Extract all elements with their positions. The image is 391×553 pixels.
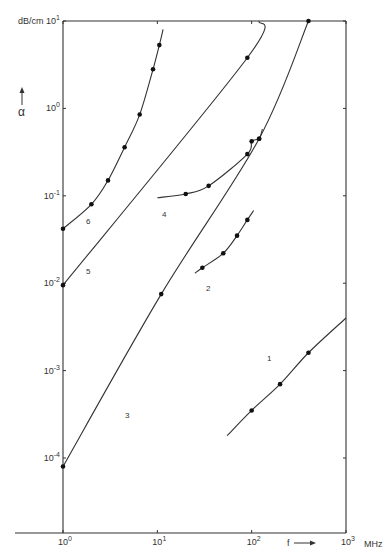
data-point-curve-4 xyxy=(245,152,250,157)
x-symbol-f: f xyxy=(287,538,290,548)
curve-2 xyxy=(195,210,254,273)
y-arrow-icon xyxy=(20,87,25,105)
x-tick-label: 103 xyxy=(341,535,355,547)
x-tick-label: 100 xyxy=(58,535,72,547)
data-point-curve-5 xyxy=(245,55,250,60)
data-point-curve-3 xyxy=(159,292,164,297)
data-point-curve-6 xyxy=(106,178,111,183)
data-point-curve-2 xyxy=(200,266,205,271)
data-point-curve-1 xyxy=(306,350,311,355)
y-tick-label: 10-3 xyxy=(44,364,60,376)
y-tick-label: 10-1 xyxy=(44,189,60,201)
data-point-curve-6 xyxy=(157,43,162,48)
curve-number-labels: 123456 xyxy=(86,210,272,420)
plot-frame xyxy=(15,21,346,533)
x-tick-label: 102 xyxy=(247,535,261,547)
y-tick-label: 10-2 xyxy=(44,276,60,288)
curve-label-3: 3 xyxy=(125,411,130,420)
curve-6 xyxy=(63,29,163,228)
data-point-curve-4 xyxy=(257,136,262,141)
x-unit-label: MHz xyxy=(364,539,383,549)
curve-5 xyxy=(63,21,265,285)
data-curves xyxy=(63,21,346,466)
data-point-curve-2 xyxy=(221,251,226,256)
data-point-curve-1 xyxy=(278,382,283,387)
x-arrow-icon xyxy=(294,541,316,546)
data-point-curve-6 xyxy=(137,112,142,117)
tick-labels: 10110010-110-210-310-4100101102103 xyxy=(44,14,355,547)
y-tick-label: 100 xyxy=(46,101,60,113)
data-point-curve-2 xyxy=(245,218,250,223)
data-point-curve-4 xyxy=(249,139,254,144)
data-point-curve-3 xyxy=(61,464,66,469)
data-point-curve-2 xyxy=(235,233,240,238)
curve-1 xyxy=(227,318,346,436)
curve-3 xyxy=(63,21,308,466)
curve-label-2: 2 xyxy=(206,284,211,293)
axis-ticks xyxy=(63,21,346,533)
curve-label-4: 4 xyxy=(162,210,167,219)
data-point-curve-6 xyxy=(61,226,66,231)
data-point-curve-6 xyxy=(151,67,156,72)
y-tick-label: 101 xyxy=(46,14,60,26)
attenuation-chart: dB/cm α f MHz 10110010-110-210-310-41001… xyxy=(0,0,391,553)
y-unit-label: dB/cm xyxy=(18,16,44,26)
data-point-curve-4 xyxy=(206,184,211,189)
data-point-curve-6 xyxy=(89,202,94,207)
x-tick-label: 101 xyxy=(152,535,166,547)
curve-label-5: 5 xyxy=(86,267,91,276)
curve-label-6: 6 xyxy=(86,217,91,226)
data-point-curve-3 xyxy=(306,19,311,24)
axis-labels: dB/cm α f MHz xyxy=(18,16,383,549)
y-symbol-alpha: α xyxy=(18,105,25,119)
data-point-curve-5 xyxy=(61,283,66,288)
y-tick-label: 10-4 xyxy=(44,451,60,463)
data-point-curve-4 xyxy=(183,192,188,197)
data-points xyxy=(61,19,311,469)
data-point-curve-1 xyxy=(249,408,254,413)
data-point-curve-6 xyxy=(122,145,127,150)
curve-label-1: 1 xyxy=(267,354,272,363)
